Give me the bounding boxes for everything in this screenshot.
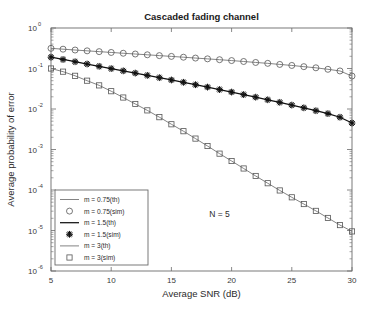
y-tick-exponent: -3 bbox=[38, 143, 43, 149]
series-1 bbox=[48, 45, 355, 79]
annotation-text: N = 5 bbox=[209, 209, 230, 219]
y-tick-label: 10 bbox=[28, 227, 37, 236]
legend-label: m = 1.5(sim) bbox=[84, 231, 121, 239]
x-tick-label: 20 bbox=[227, 276, 236, 285]
chart-title: Cascaded fading channel bbox=[144, 11, 259, 22]
y-tick-exponent: -2 bbox=[38, 102, 43, 108]
y-axis-label: Average probability of error bbox=[5, 92, 16, 206]
figure-canvas: 51015202530Average SNR (dB)10010-110-210… bbox=[0, 0, 374, 319]
legend-label: m = 3(sim) bbox=[84, 254, 115, 262]
y-tick-label: 10 bbox=[28, 267, 37, 276]
legend-label: m = 0.75(th) bbox=[84, 196, 120, 204]
legend-label: m = 0.75(sim) bbox=[84, 208, 125, 216]
x-axis-label: Average SNR (dB) bbox=[162, 288, 241, 299]
x-tick-label: 30 bbox=[348, 276, 357, 285]
y-tick-exponent: -4 bbox=[38, 183, 43, 189]
x-tick-label: 25 bbox=[287, 276, 296, 285]
y-tick-label: 10 bbox=[28, 146, 37, 155]
x-tick-label: 10 bbox=[107, 276, 116, 285]
y-tick-label: 10 bbox=[28, 24, 37, 33]
y-tick-exponent: -5 bbox=[38, 224, 43, 230]
chart-svg: 51015202530Average SNR (dB)10010-110-210… bbox=[0, 0, 374, 319]
y-tick-exponent: 0 bbox=[38, 21, 41, 27]
x-tick-label: 15 bbox=[167, 276, 176, 285]
legend-label: m = 1.5(th) bbox=[84, 219, 116, 227]
x-tick-label: 5 bbox=[49, 276, 54, 285]
y-tick-label: 10 bbox=[28, 65, 37, 74]
y-tick-label: 10 bbox=[28, 186, 37, 195]
legend-label: m = 3(th) bbox=[84, 242, 111, 250]
y-tick-exponent: -6 bbox=[38, 264, 43, 270]
legend: m = 0.75(th)m = 0.75(sim)m = 1.5(th)m = … bbox=[55, 190, 148, 265]
y-tick-label: 10 bbox=[28, 105, 37, 114]
y-tick-exponent: -1 bbox=[38, 62, 43, 68]
